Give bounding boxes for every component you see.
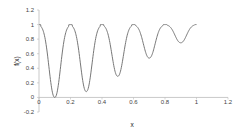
y-tick-label: -0.2 xyxy=(24,109,35,115)
y-tick-label: 0.6 xyxy=(26,51,35,57)
axes xyxy=(39,10,228,112)
x-tick-label: 0.8 xyxy=(161,99,170,105)
chart: 1.210.80.60.40.20-0.2 00.20.40.60.811.2 … xyxy=(0,0,250,137)
y-tick-label: 0.8 xyxy=(26,36,35,42)
x-tick-label: 0.2 xyxy=(66,99,75,105)
x-axis-label: x xyxy=(130,121,134,128)
y-tick-label: 1 xyxy=(31,22,35,28)
x-tick-label: 1.2 xyxy=(224,99,233,105)
x-tick-label: 0.4 xyxy=(98,99,107,105)
x-axis-ticks: 00.20.40.60.811.2 xyxy=(37,97,233,105)
y-tick-label: 0 xyxy=(31,94,35,100)
data-line xyxy=(39,25,197,98)
y-tick-label: 0.2 xyxy=(26,80,35,86)
y-tick-label: 1.2 xyxy=(26,7,35,13)
x-tick-label: 1 xyxy=(195,99,199,105)
y-tick-label: 0.4 xyxy=(26,65,35,71)
x-tick-label: 0 xyxy=(37,99,41,105)
y-axis-label: f(x) xyxy=(13,56,21,65)
x-tick-label: 0.6 xyxy=(129,99,138,105)
